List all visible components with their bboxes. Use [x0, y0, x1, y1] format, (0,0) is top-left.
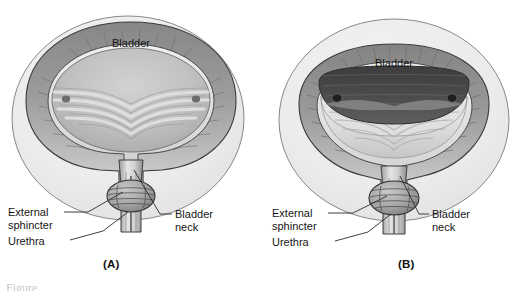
panel-a-urethra-label: Urethra [8, 235, 46, 247]
panel-b-urethra-label: Urethra [272, 236, 310, 248]
ureteral-orifice-right [447, 94, 457, 102]
figure-root: Bladder External sphincter Urethra Bladd… [0, 0, 526, 291]
panel-b-bladder-label: Bladder [375, 57, 413, 69]
ureteral-orifice-left [62, 96, 70, 103]
panel-b-external-sphincter-label-line1: External [272, 207, 312, 219]
panel-b-caption: (B) [398, 258, 415, 270]
ureteral-orifice-left [332, 94, 342, 102]
panel-a: Bladder External sphincter Urethra Bladd… [0, 0, 263, 291]
panel-a-bladder-neck-label-line2: neck [175, 221, 199, 233]
panel-a-bladder-label: Bladder [112, 37, 150, 49]
panel-b: Bladder External sphincter Urethra Bladd… [263, 0, 526, 291]
panel-a-bladder-neck-label-line1: Bladder [175, 208, 213, 220]
panel-a-lumen [52, 48, 210, 152]
panel-a-external-sphincter [107, 180, 155, 212]
panel-b-bladder-neck-label-line1: Bladder [432, 208, 470, 220]
panel-a-caption: (A) [103, 258, 120, 270]
figure-caption-partial: Figure [6, 281, 146, 291]
panel-a-external-sphincter-label-line1: External [8, 206, 48, 218]
panel-b-bladder-neck-label-line2: neck [432, 221, 456, 233]
panel-a-external-sphincter-label-line2: sphincter [8, 219, 53, 231]
panel-b-external-sphincter-label-line2: sphincter [272, 220, 317, 232]
ureteral-orifice-right [192, 96, 200, 103]
